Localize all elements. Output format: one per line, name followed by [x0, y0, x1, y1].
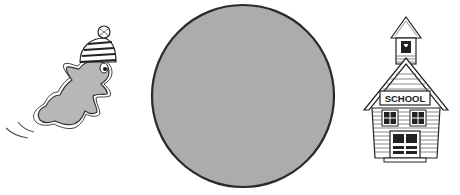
frog-icon — [0, 0, 150, 195]
gray-circle — [140, 0, 340, 195]
schoolhouse-icon: SCHOOL — [340, 0, 460, 195]
school-sign-text: SCHOOL — [385, 93, 426, 104]
